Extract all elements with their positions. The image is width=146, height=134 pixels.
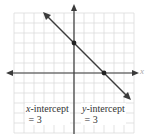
x-intercept-point [102, 71, 107, 76]
x-axis [6, 70, 139, 76]
y-axis [71, 4, 77, 134]
x-intercept-text: -intercept [30, 103, 68, 114]
x-intercept-value: = 3 [29, 114, 42, 125]
y-intercept-value: = 3 [85, 114, 98, 125]
x-axis-right-arrow-icon [132, 70, 139, 76]
function-line [43, 12, 131, 100]
x-intercept-annotation: x-intercept = 3 [25, 103, 70, 125]
x-axis-label: x [140, 66, 144, 76]
y-intercept-annotation: y-intercept = 3 [81, 103, 126, 125]
x-axis-left-arrow-icon [6, 70, 13, 76]
y-intercept-text: -intercept [86, 103, 124, 114]
y-intercept-point [72, 41, 77, 46]
y-axis-up-arrow-icon [71, 4, 77, 11]
